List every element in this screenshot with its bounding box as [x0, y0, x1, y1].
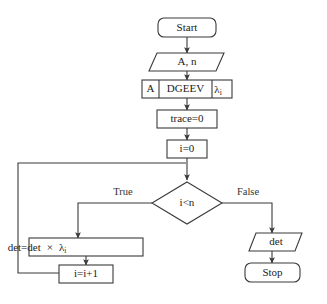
init-i-label: i=0 — [180, 142, 195, 154]
stop-label: Stop — [262, 266, 283, 278]
init-trace-label: trace=0 — [170, 112, 204, 124]
node-stop[interactable]: Stop — [245, 263, 300, 282]
node-output[interactable]: det — [249, 233, 302, 251]
call-cell-matrix-label: A — [147, 82, 155, 94]
edge-decision-true — [78, 203, 152, 238]
branch-label-false: False — [237, 186, 260, 197]
node-dgeev-call[interactable]: A DGEEV λi — [142, 80, 232, 98]
node-init-i[interactable]: i=0 — [167, 140, 207, 158]
output-label: det — [269, 235, 282, 247]
decision-label: i<n — [180, 196, 195, 208]
node-decision[interactable]: i<n — [152, 182, 222, 224]
node-increment[interactable]: i=i+1 — [59, 265, 113, 283]
branch-label-true: True — [113, 186, 133, 197]
call-cell-routine-label: DGEEV — [167, 82, 204, 94]
increment-label: i=i+1 — [74, 267, 98, 279]
flowchart-canvas: Start A, n A DGEEV λi trace=0 i=0 — [0, 0, 327, 304]
node-accumulate[interactable]: det=det×λi — [8, 238, 143, 256]
node-input[interactable]: A, n — [149, 53, 224, 71]
node-start[interactable]: Start — [158, 18, 216, 37]
node-init-trace[interactable]: trace=0 — [157, 110, 217, 128]
start-label: Start — [177, 21, 198, 33]
edge-decision-false — [222, 203, 272, 233]
flowchart-svg: Start A, n A DGEEV λi trace=0 i=0 — [0, 0, 327, 304]
input-label: A, n — [178, 55, 197, 67]
